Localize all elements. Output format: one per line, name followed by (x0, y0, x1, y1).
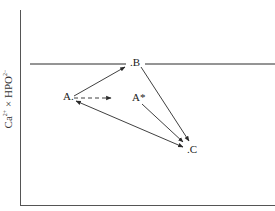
arrow-a-to-b (74, 67, 125, 96)
point-a-star-label: A* (132, 91, 145, 103)
y-axis-label: Ca2+ × HPO2− (2, 44, 16, 154)
y-label-times: × (2, 98, 14, 110)
y-label-ca: Ca (2, 116, 14, 128)
y-label-hpo-charge: 2− (2, 70, 8, 76)
diagram-canvas (0, 0, 275, 211)
point-c-label: .C (187, 143, 197, 155)
point-a-label: A. (63, 90, 74, 102)
y-label-ca-charge: 2+ (2, 110, 8, 116)
y-label-hpo: HPO (2, 76, 14, 98)
arrow-b-to-c (141, 67, 189, 141)
point-b-label: .B (130, 56, 140, 68)
arrow-a-c-bidirectional (76, 101, 183, 147)
